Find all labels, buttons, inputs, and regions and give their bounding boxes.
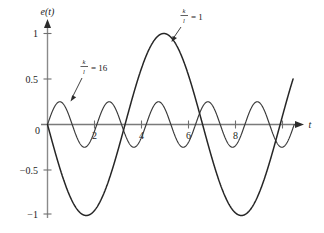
y-axis-arrowhead [44,19,51,28]
annotation-16-equals: = 16 [91,63,108,73]
y-tick-group: 1 0.5 0 −0.5 −1 [20,28,52,220]
y-tick-label-0-5: 0.5 [26,74,39,85]
annotation-16-leader-line [73,78,83,97]
annotation-1-leader-line [174,27,182,38]
x-axis-label: t [309,119,312,130]
y-axis-label: e(t) [41,6,56,18]
annotation-1-numerator: k [183,7,186,14]
annotation-16-denominator: l [83,68,85,75]
y-tick-label-neg-0-5: −0.5 [20,165,38,176]
y-axis: e(t) [41,6,56,218]
annotation-ratio-16: k l = 16 [71,58,108,102]
chart-figure: t e(t) 1 0.5 0 −0.5 −1 2 4 6 [0,0,324,233]
annotation-16-arrowhead [71,95,77,101]
y-tick-label-neg-1: −1 [27,209,38,220]
plot-canvas: t e(t) 1 0.5 0 −0.5 −1 2 4 6 [0,0,324,233]
x-axis-arrowhead [295,121,304,128]
annotation-1-equals: = 1 [191,12,203,22]
x-tick-label-8: 8 [233,130,238,141]
annotation-1-denominator: l [183,17,185,24]
y-tick-label-1: 1 [33,28,38,39]
origin-label: 0 [35,125,40,136]
annotation-ratio-1: k l = 1 [172,7,203,42]
annotation-16-numerator: k [83,58,86,65]
x-tick-group: 2 4 6 8 [92,121,283,142]
